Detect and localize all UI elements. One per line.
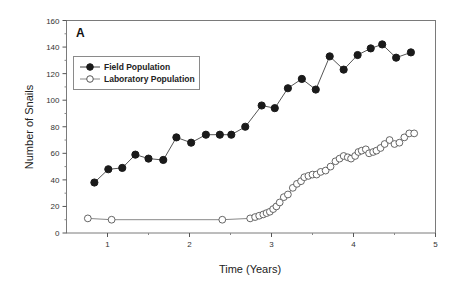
- data-point: [216, 131, 223, 138]
- data-point: [258, 102, 265, 109]
- data-point: [312, 86, 319, 93]
- x-tick-label: 3: [269, 240, 274, 249]
- plot-area-frame: [67, 21, 436, 234]
- data-point: [84, 215, 91, 222]
- data-point: [367, 45, 374, 52]
- data-point: [228, 131, 235, 138]
- x-axis: 12345: [105, 233, 438, 249]
- y-tick-label: 40: [51, 176, 60, 185]
- data-point: [396, 139, 403, 146]
- data-point: [219, 216, 226, 223]
- data-point: [379, 41, 386, 48]
- y-tick-label: 140: [46, 43, 60, 52]
- data-point: [242, 123, 249, 130]
- filled-circle-icon: [87, 64, 94, 71]
- data-point: [271, 105, 278, 112]
- data-point: [145, 155, 152, 162]
- chart-figure: 020406080100120140160 12345 A Field Popu…: [0, 0, 462, 293]
- series-laboratory-population: [84, 130, 417, 223]
- x-axis-label: Time (Years): [219, 263, 281, 275]
- data-point: [411, 130, 418, 137]
- data-point: [119, 164, 126, 171]
- data-point: [173, 134, 180, 141]
- data-point: [160, 156, 167, 163]
- y-axis-label: Number of Snails: [23, 84, 35, 169]
- x-tick-label: 2: [187, 240, 192, 249]
- y-tick-label: 160: [46, 17, 60, 26]
- data-point: [393, 54, 400, 61]
- y-axis: 020406080100120140160: [46, 17, 66, 239]
- x-tick-label: 4: [351, 240, 356, 249]
- y-tick-label: 60: [51, 149, 60, 158]
- data-point: [354, 51, 361, 58]
- y-tick-label: 80: [51, 123, 60, 132]
- y-tick-label: 100: [46, 96, 60, 105]
- y-tick-label: 0: [55, 229, 60, 238]
- legend-field-label: Field Population: [104, 62, 170, 72]
- data-point: [284, 85, 291, 92]
- data-point: [91, 179, 98, 186]
- legend-lab-label: Laboratory Population: [104, 74, 195, 84]
- x-tick-label: 5: [433, 240, 438, 249]
- data-point: [188, 139, 195, 146]
- y-tick-label: 20: [51, 202, 60, 211]
- data-point: [327, 163, 334, 170]
- open-circle-icon: [87, 76, 94, 83]
- data-point: [105, 166, 112, 173]
- data-point: [326, 53, 333, 60]
- data-point: [298, 75, 305, 82]
- data-point: [202, 131, 209, 138]
- data-point: [108, 216, 115, 223]
- data-point: [407, 49, 414, 56]
- data-point: [132, 151, 139, 158]
- panel-label: A: [76, 26, 85, 40]
- x-tick-label: 1: [105, 240, 110, 249]
- y-tick-label: 120: [46, 70, 60, 79]
- data-point: [285, 191, 292, 198]
- legend: Field Population Laboratory Population: [74, 57, 200, 90]
- data-point: [340, 66, 347, 73]
